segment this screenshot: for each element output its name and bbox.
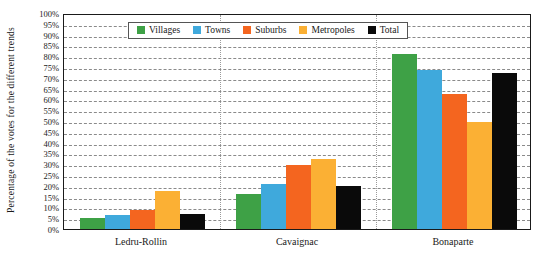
bar-group-ledru-rollin — [64, 15, 220, 229]
y-axis-tick-100%: 100% — [39, 10, 59, 19]
y-axis-tick-40%: 40% — [43, 139, 59, 148]
legend-swatch-icon-suburbs — [243, 26, 251, 34]
legend-item-towns[interactable]: Towns — [193, 25, 230, 35]
y-axis-title: Percentage of the votes for the differen… — [0, 0, 22, 240]
y-axis-tick-15%: 15% — [43, 193, 59, 202]
bar-total-cavaignac — [336, 186, 361, 229]
bar-towns-ledru-rollin — [105, 215, 130, 229]
bar-villages-cavaignac — [236, 194, 261, 229]
bar-total-bonaparte — [492, 73, 517, 229]
bar-villages-bonaparte — [392, 54, 417, 229]
y-axis-tick-85%: 85% — [43, 42, 59, 51]
bar-chart: Percentage of the votes for the differen… — [0, 0, 539, 262]
x-axis-tick-labels: Ledru-RollinCavaignacBonaparte — [63, 236, 531, 256]
legend-swatch-icon-metropoles — [299, 26, 307, 34]
y-axis-tick-5%: 5% — [48, 215, 59, 224]
x-axis-tick-bonaparte: Bonaparte — [432, 236, 473, 247]
bar-villages-ledru-rollin — [80, 218, 105, 229]
legend-swatch-icon-villages — [137, 26, 145, 34]
bar-towns-bonaparte — [417, 70, 442, 229]
plot-area — [63, 14, 531, 230]
legend-label-total: Total — [380, 25, 399, 35]
bar-metropoles-bonaparte — [467, 122, 492, 229]
y-axis-title-label: Percentage of the votes for the differen… — [6, 27, 16, 213]
y-axis-tick-25%: 25% — [43, 172, 59, 181]
bar-suburbs-cavaignac — [286, 165, 311, 229]
y-axis-tick-95%: 95% — [43, 21, 59, 30]
legend-swatch-icon-total — [368, 26, 376, 34]
y-axis-tick-75%: 75% — [43, 64, 59, 73]
y-axis-tick-45%: 45% — [43, 129, 59, 138]
y-axis-tick-60%: 60% — [43, 96, 59, 105]
y-axis-tick-labels: 0%5%10%15%20%25%30%35%40%45%50%55%60%65%… — [22, 14, 62, 230]
bar-metropoles-ledru-rollin — [155, 191, 180, 229]
bar-metropoles-cavaignac — [311, 159, 336, 229]
y-axis-tick-50%: 50% — [43, 118, 59, 127]
y-axis-tick-80%: 80% — [43, 53, 59, 62]
legend-label-suburbs: Suburbs — [255, 25, 286, 35]
bar-towns-cavaignac — [261, 184, 286, 229]
bar-group-cavaignac — [220, 15, 376, 229]
y-axis-tick-20%: 20% — [43, 183, 59, 192]
legend-swatch-icon-towns — [193, 26, 201, 34]
bar-group-bonaparte — [376, 15, 531, 229]
legend-label-towns: Towns — [205, 25, 230, 35]
y-axis-tick-30%: 30% — [43, 161, 59, 170]
legend-item-metropoles[interactable]: Metropoles — [299, 25, 354, 35]
bar-suburbs-ledru-rollin — [130, 210, 155, 229]
y-axis-tick-70%: 70% — [43, 75, 59, 84]
y-axis-tick-55%: 55% — [43, 107, 59, 116]
legend-item-villages[interactable]: Villages — [137, 25, 180, 35]
y-axis-tick-35%: 35% — [43, 150, 59, 159]
chart-legend: VillagesTownsSuburbsMetropolesTotal — [128, 22, 408, 39]
y-axis-tick-90%: 90% — [43, 31, 59, 40]
legend-label-metropoles: Metropoles — [311, 25, 354, 35]
legend-item-total[interactable]: Total — [368, 25, 399, 35]
legend-item-suburbs[interactable]: Suburbs — [243, 25, 286, 35]
bar-total-ledru-rollin — [180, 214, 205, 229]
y-axis-tick-0%: 0% — [48, 226, 59, 235]
y-axis-tick-10%: 10% — [43, 204, 59, 213]
bar-suburbs-bonaparte — [442, 94, 467, 229]
x-axis-tick-cavaignac: Cavaignac — [276, 236, 318, 247]
x-axis-tick-ledru-rollin: Ledru-Rollin — [115, 236, 167, 247]
y-axis-tick-65%: 65% — [43, 85, 59, 94]
legend-label-villages: Villages — [149, 25, 180, 35]
